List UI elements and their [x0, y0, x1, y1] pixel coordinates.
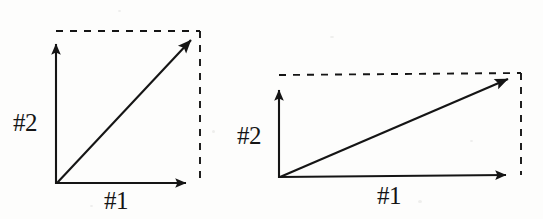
left-axis-1-label: #1 [104, 188, 128, 213]
right-resultant-vector [280, 79, 508, 177]
left-panel-group [56, 31, 200, 184]
right-axis-1-label: #1 [377, 183, 401, 208]
right-dashed-top-edge [279, 73, 521, 75]
left-axis-2-label: #2 [13, 110, 37, 135]
figure-canvas: #2 #1 #2 #1 [0, 0, 543, 219]
left-resultant-vector [57, 40, 191, 183]
right-panel-group [279, 73, 521, 178]
vector-diagram-svg [0, 0, 543, 219]
right-axis-1-vector [279, 175, 506, 177]
right-axis-2-label: #2 [237, 123, 261, 148]
